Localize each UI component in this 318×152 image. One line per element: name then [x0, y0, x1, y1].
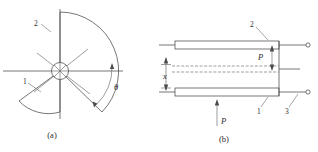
upper-terminal-node: [306, 43, 310, 47]
dimension-x-label: x: [162, 71, 167, 81]
angle-theta-arrowhead-top: [110, 63, 114, 69]
upper-sector-arc: [60, 12, 119, 112]
force-lower-arrowhead: [215, 99, 219, 106]
dimension-x-arrow-up: [164, 57, 168, 64]
panel-b-caption: (b): [219, 134, 229, 144]
lower-sector-arc: [19, 101, 60, 114]
leader-line-part-two-b: [256, 27, 268, 40]
force-upper-label: P: [257, 52, 263, 62]
part-label-two-a: 2: [34, 19, 38, 28]
figure-svg: θ 2 1 (a): [0, 0, 318, 152]
upper-bar: [175, 41, 279, 49]
panel-a-caption: (a): [47, 130, 57, 140]
angle-theta-arc: [96, 66, 112, 105]
technical-figure: θ 2 1 (a): [0, 0, 318, 152]
part-label-one-a: 1: [23, 77, 27, 86]
force-lower-label: P: [220, 116, 226, 126]
panel-b-group: x P P 2 1 3 (b): [159, 20, 310, 144]
leader-line-part-one-b: [261, 97, 268, 107]
leader-line-part-one-a: [28, 83, 41, 92]
panel-a-group: θ 2 1 (a): [3, 9, 123, 140]
lower-terminal-node: [306, 90, 310, 94]
leader-line-part-three-b: [289, 94, 298, 107]
part-label-two-b: 2: [250, 20, 254, 29]
force-upper-arrowhead-lower: [270, 65, 274, 72]
part-label-three-b: 3: [285, 107, 289, 116]
leader-line-part-two-a: [41, 24, 51, 32]
part-label-one-b: 1: [257, 107, 261, 116]
angle-theta-label: θ: [114, 82, 118, 92]
lower-bar: [175, 88, 279, 96]
